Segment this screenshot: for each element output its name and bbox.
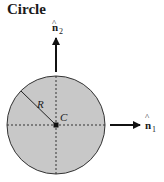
n1-subscript: 1	[152, 125, 156, 134]
radius-label: R	[36, 98, 44, 110]
n2-subscript: 2	[59, 27, 63, 36]
n2-label: n	[52, 21, 58, 33]
center-label: C	[60, 111, 68, 123]
circle-diagram: R C ^ n 2 ^ n 1	[0, 0, 164, 182]
center-point	[54, 123, 59, 128]
n1-label: n	[145, 119, 151, 131]
